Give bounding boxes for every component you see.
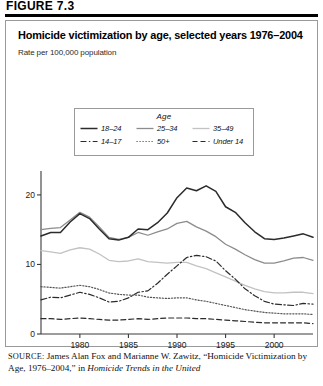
- x-tick-label: 1990: [168, 340, 187, 348]
- figure-container: FIGURE 7.3 Homicide victimization by age…: [0, 0, 323, 386]
- source-italic-title: Homicide Trends in the United: [87, 363, 200, 373]
- chart-legend: Age 18–2425–3435–4914–1750+Under 14: [74, 108, 254, 156]
- legend-item[interactable]: 35–49: [192, 122, 248, 135]
- legend-item[interactable]: 50+: [136, 135, 192, 148]
- series-line: [41, 186, 313, 240]
- legend-line-swatch: [80, 138, 98, 145]
- legend-line-swatch: [136, 138, 154, 145]
- series-line: [41, 285, 313, 314]
- figure-rule: [5, 14, 318, 17]
- series-line: [41, 212, 313, 263]
- x-tick-label: 1985: [119, 340, 138, 348]
- chart-title: Homicide victimization by age, selected …: [18, 29, 303, 41]
- legend-title: Age: [75, 112, 253, 121]
- legend-item[interactable]: 14–17: [80, 135, 136, 148]
- x-tick-label: 1980: [70, 340, 89, 348]
- legend-label: 25–34: [157, 124, 177, 133]
- chart-panel: Homicide victimization by age, selected …: [5, 20, 318, 347]
- legend-line-swatch: [192, 138, 210, 145]
- y-tick-label: 0: [30, 329, 35, 339]
- legend-line-swatch: [80, 125, 98, 132]
- y-tick-label: 10: [26, 259, 36, 269]
- legend-item[interactable]: 25–34: [136, 122, 192, 135]
- figure-label: FIGURE 7.3: [6, 0, 74, 13]
- line-chart-svg: 0102019801985199019952000: [6, 21, 319, 348]
- y-tick-label: 20: [26, 190, 36, 200]
- legend-items: 18–2425–3435–4914–1750+Under 14: [75, 122, 253, 148]
- x-tick-label: 2000: [265, 340, 284, 348]
- legend-label: Under 14: [213, 137, 243, 146]
- legend-line-swatch: [136, 125, 154, 132]
- series-line: [41, 248, 313, 294]
- legend-label: 18–24: [101, 124, 121, 133]
- legend-label: 35–49: [213, 124, 233, 133]
- source-prefix: SOURCE:: [8, 352, 44, 361]
- series-line: [41, 255, 313, 305]
- legend-label: 14–17: [101, 137, 121, 146]
- plot-area: 0102019801985199019952000: [6, 21, 319, 348]
- source-note: SOURCE: James Alan Fox and Marianne W. Z…: [8, 351, 320, 374]
- x-tick-label: 1995: [216, 340, 235, 348]
- legend-item[interactable]: 18–24: [80, 122, 136, 135]
- chart-subtitle: Rate per 100,000 population: [18, 48, 116, 57]
- legend-line-swatch: [192, 125, 210, 132]
- legend-label: 50+: [157, 137, 169, 146]
- series-line: [41, 318, 313, 324]
- legend-item[interactable]: Under 14: [192, 135, 248, 148]
